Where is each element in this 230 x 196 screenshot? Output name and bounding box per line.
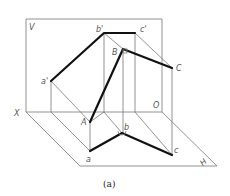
label-o: O [153,101,159,110]
h-plane [26,112,217,166]
label-b-prime: b' [96,25,103,34]
label-b: b [124,123,129,132]
label-c-prime: c' [140,25,147,34]
label-c: c [174,146,179,155]
label-a: a [86,155,91,164]
label-B: B [112,48,118,57]
label-a-prime: a' [41,77,48,86]
projection-diagram: V X H b' c' a' B C A a b c O (a) [0,0,230,196]
label-A: A [80,118,86,127]
label-C: C [176,64,182,73]
label-x: X [13,109,20,118]
figure-caption: (a) [103,179,115,189]
label-v: V [29,23,35,32]
